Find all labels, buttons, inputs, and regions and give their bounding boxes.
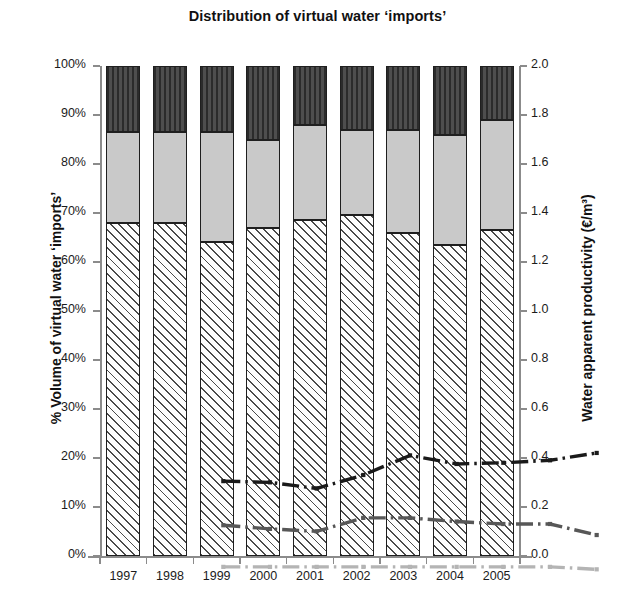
line-marker: [268, 480, 272, 484]
y-tick-mark-left: [93, 212, 100, 214]
line-marker: [221, 523, 225, 527]
line-marker: [315, 565, 319, 569]
y-tick-mark-left: [93, 506, 100, 508]
line-marker: [455, 519, 459, 523]
bar-segment-dark-striped: [386, 66, 420, 130]
line-marker: [315, 486, 319, 490]
line-marker: [268, 565, 272, 569]
y-tick-mark-right: [520, 114, 527, 116]
y-tick-label-left: 50%: [30, 302, 86, 316]
line-marker: [595, 533, 599, 537]
line-marker: [548, 458, 552, 462]
x-tick-mark: [99, 557, 101, 564]
line-marker: [455, 565, 459, 569]
line-marker: [361, 516, 365, 520]
line-marker: [548, 522, 552, 526]
line-marker: [595, 567, 599, 571]
y-tick-label-left: 60%: [30, 253, 86, 267]
y-tick-label-left: 20%: [30, 449, 86, 463]
line-marker: [595, 451, 599, 455]
line-marker: [501, 461, 505, 465]
light-grey-productivity-line: [221, 565, 599, 572]
y-tick-label-right: 2.0: [531, 57, 565, 71]
y-tick-mark-left: [93, 359, 100, 361]
bar-segment-hatched: [106, 223, 140, 556]
y-tick-label-left: 90%: [30, 106, 86, 120]
y-tick-label-left: 70%: [30, 204, 86, 218]
line-marker: [408, 516, 412, 520]
x-tick-mark: [146, 557, 148, 564]
bar-segment-hatched: [153, 223, 187, 556]
stacked-bar: [106, 66, 140, 556]
bar-segment-dark-striped: [200, 66, 234, 132]
y-tick-mark-right: [520, 65, 527, 67]
y-tick-mark-left: [93, 163, 100, 165]
y-tick-label-left: 0%: [30, 547, 86, 561]
y-tick-label-right: 1.8: [531, 106, 565, 120]
line-series-layer: [200, 132, 620, 611]
bar-segment-dark-striped: [106, 66, 140, 132]
y-tick-label-left: 30%: [30, 400, 86, 414]
line-path: [223, 518, 596, 535]
bar-segment-dark-striped: [153, 66, 187, 132]
plot-area: [100, 66, 520, 556]
y-tick-mark-left: [93, 261, 100, 263]
x-tick-mark: [193, 557, 195, 564]
line-marker: [408, 453, 412, 457]
line-marker: [221, 565, 225, 569]
line-marker: [501, 522, 505, 526]
line-marker: [501, 565, 505, 569]
line-marker: [361, 473, 365, 477]
line-marker: [315, 529, 319, 533]
y-tick-mark-left: [93, 457, 100, 459]
line-marker: [221, 479, 225, 483]
line-marker: [268, 527, 272, 531]
bar-segment-dark-striped: [340, 66, 374, 130]
chart-figure: Distribution of virtual water ‘imports’ …: [0, 0, 635, 611]
y-tick-label-left: 80%: [30, 155, 86, 169]
black-productivity-line: [221, 451, 599, 491]
y-tick-mark-left: [93, 310, 100, 312]
stacked-bar: [153, 66, 187, 556]
y-tick-mark-left: [93, 65, 100, 67]
bar-segment-light-grey: [153, 132, 187, 223]
bar-segment-dark-striped: [246, 66, 280, 140]
y-tick-mark-left: [93, 408, 100, 410]
y-tick-label-left: 40%: [30, 351, 86, 365]
bar-segment-light-grey: [106, 132, 140, 223]
line-marker: [548, 565, 552, 569]
line-marker: [455, 462, 459, 466]
chart-title: Distribution of virtual water ‘imports’: [0, 8, 635, 24]
bar-segment-dark-striped: [480, 66, 514, 120]
line-marker: [408, 565, 412, 569]
bar-segment-dark-striped: [293, 66, 327, 125]
line-marker: [361, 565, 365, 569]
y-tick-label-left: 100%: [30, 57, 86, 71]
dark-grey-productivity-line: [221, 516, 599, 537]
bar-segment-dark-striped: [433, 66, 467, 135]
y-tick-label-left: 10%: [30, 498, 86, 512]
line-path: [223, 453, 596, 489]
y-tick-mark-left: [93, 114, 100, 116]
